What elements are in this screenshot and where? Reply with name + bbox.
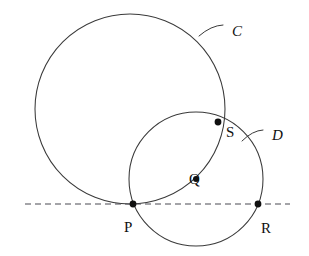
circle-d-label: D [272,128,283,143]
point-r-dot [255,201,262,208]
point-p-label: P [124,220,132,235]
point-s-dot [215,119,222,126]
point-s-label: S [226,125,234,140]
figure-canvas [0,0,309,256]
circle-c-label: C [232,24,242,39]
geometry-figure: C D P Q R S [0,0,309,256]
point-r-label: R [261,221,271,236]
leader-line-d [242,130,263,141]
leader-line-c [199,25,223,36]
point-p-dot [130,201,137,208]
point-q-label: Q [189,172,200,187]
